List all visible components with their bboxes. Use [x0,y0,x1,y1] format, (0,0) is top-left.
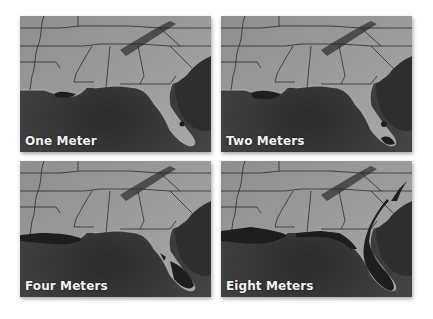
sea-level-map [20,16,211,152]
sea-level-map [221,161,412,297]
panel-label: One Meter [25,134,97,148]
panel-label: Two Meters [226,134,304,148]
map-panel-two-meters: Two Meters [221,16,412,152]
sea-level-map [221,16,412,152]
map-panel-four-meters: Four Meters [20,161,211,297]
panel-label: Four Meters [25,279,108,293]
panel-label: Eight Meters [226,279,314,293]
map-panel-one-meter: One Meter [20,16,211,152]
map-panel-eight-meters: Eight Meters [221,161,412,297]
sea-level-map [20,161,211,297]
